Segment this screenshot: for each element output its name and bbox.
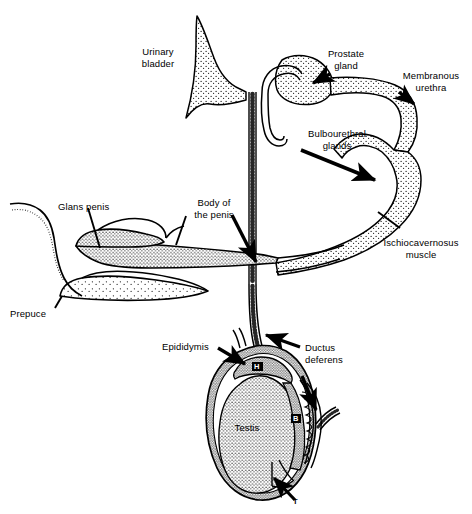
label-testis: Testis xyxy=(226,422,268,434)
anatomy-figure: Urinary bladder Prostate gland Membranou… xyxy=(0,0,472,514)
label-epididymis: Epididymis xyxy=(162,341,224,353)
urinary-bladder-shape xyxy=(186,16,246,118)
prepuce-shape xyxy=(60,271,208,300)
label-ischiocavernosus-muscle: Ischiocavernosus muscle xyxy=(372,237,470,260)
prepuce-leader xyxy=(55,296,62,308)
marker-tail-of-epididymis: T xyxy=(293,497,298,506)
label-urinary-bladder: Urinary bladder xyxy=(124,46,192,69)
label-glans-penis: Glans penis xyxy=(58,201,132,213)
marker-body-of-epididymis: B xyxy=(293,414,298,423)
label-ductus-deferens: Ductus deferens xyxy=(305,342,361,365)
marker-head-of-epididymis: H xyxy=(254,362,259,371)
testis-shape xyxy=(219,376,297,493)
label-membranous-urethra: Membranous urethra xyxy=(392,70,470,93)
label-prepuce: Prepuce xyxy=(10,308,62,320)
label-body-of-the-penis: Body of the penis xyxy=(186,197,242,220)
label-prostate-gland: Prostate gland xyxy=(316,48,376,71)
label-bulbourethral-glands: Bulbourethral glands xyxy=(296,128,378,151)
body-of-penis-leader-left xyxy=(176,216,186,245)
anatomy-structures xyxy=(10,16,421,500)
